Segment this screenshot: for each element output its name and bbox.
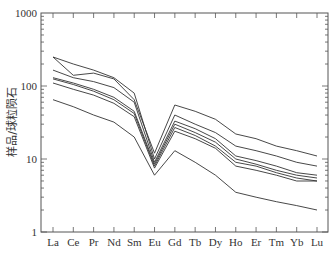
series-line bbox=[53, 57, 317, 156]
x-tick-label: Er bbox=[251, 236, 262, 248]
x-tick-label: Tm bbox=[269, 236, 285, 248]
y-tick-label: 100 bbox=[21, 80, 38, 92]
x-tick-label: Sm bbox=[127, 236, 142, 248]
x-tick-label: Tb bbox=[189, 236, 202, 248]
ree-pattern-chart: 1101001000 LaCePrNdSmEuGdTbDyHoErTmYbLu … bbox=[0, 0, 335, 259]
series-line bbox=[53, 100, 317, 210]
x-tick-label: La bbox=[47, 236, 59, 248]
x-axis: LaCePrNdSmEuGdTbDyHoErTmYbLu bbox=[47, 13, 323, 248]
x-tick-label: Eu bbox=[148, 236, 161, 248]
y-tick-label: 1 bbox=[32, 226, 38, 238]
plot-frame bbox=[41, 13, 328, 232]
x-tick-label: Ho bbox=[229, 236, 243, 248]
x-tick-label: Dy bbox=[209, 236, 223, 248]
y-tick-label: 1000 bbox=[15, 7, 38, 19]
x-tick-label: Gd bbox=[168, 236, 182, 248]
x-tick-label: Pr bbox=[89, 236, 99, 248]
data-lines bbox=[53, 57, 317, 210]
x-tick-label: Lu bbox=[311, 236, 324, 248]
x-tick-label: Ce bbox=[67, 236, 79, 248]
series-line bbox=[53, 79, 317, 181]
x-tick-label: Yb bbox=[290, 236, 304, 248]
series-line bbox=[53, 70, 317, 175]
x-tick-label: Nd bbox=[107, 236, 121, 248]
y-axis-label: 样品/球粒陨石 bbox=[5, 87, 19, 157]
series-line bbox=[53, 78, 317, 178]
y-tick-label: 10 bbox=[26, 153, 38, 165]
